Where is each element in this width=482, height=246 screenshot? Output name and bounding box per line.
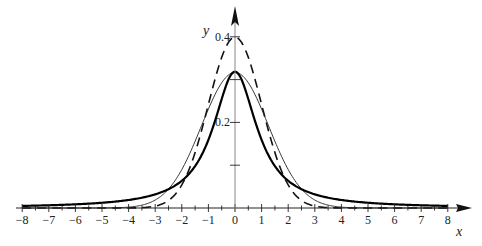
x-tick-label: −5 [96,213,109,227]
x-tick-label: 8 [445,213,451,227]
x-tick-label: 7 [418,213,424,227]
x-tick-label: 5 [365,213,371,227]
x-tick-label: −1 [202,213,215,227]
x-tick-label: −7 [42,213,55,227]
x-tick-label: −4 [122,213,135,227]
x-tick-label: 3 [312,213,318,227]
x-tick-label: −8 [16,213,29,227]
y-axis-label: y [201,23,210,38]
x-tick-label: 6 [392,213,398,227]
x-axis-label: x [455,224,463,239]
x-tick-label: −2 [175,213,188,227]
chart: −8−7−6−5−4−3−2−10123456780.20.4 x y [0,0,482,246]
axes-group: −8−7−6−5−4−3−2−10123456780.20.4 [16,6,472,227]
x-tick-label: 1 [259,213,265,227]
x-tick-label: 2 [285,213,291,227]
x-tick-label: −3 [149,213,162,227]
x-tick-label: −6 [69,213,82,227]
y-tick-label: 0.4 [215,30,230,44]
x-tick-label: 0 [232,213,238,227]
y-tick-label: 0.2 [215,115,230,129]
x-tick-label: 4 [338,213,344,227]
x-axis-arrow-icon [456,204,472,212]
